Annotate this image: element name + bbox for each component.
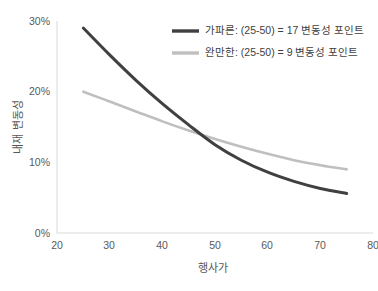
- chart-container: 30% 20% 10% 0% 20 30 40 50 60 70 80 행사가 …: [0, 0, 378, 291]
- y-tick-label-30: 30%: [29, 15, 50, 27]
- x-tick-label-70: 70: [314, 239, 326, 251]
- legend-label-gentle: 완만한: (25-50) = 9 변동성 포인트: [205, 46, 358, 58]
- x-tick-label-30: 30: [103, 239, 115, 251]
- y-tick-label-10: 10%: [29, 156, 50, 168]
- x-tick-label-80: 80: [367, 239, 378, 251]
- x-tick-label-40: 40: [156, 239, 168, 251]
- legend-label-steep: 가파른: (25-50) = 17 변동성 포인트: [205, 24, 364, 36]
- chart-legend: 가파른: (25-50) = 17 변동성 포인트 완만한: (25-50) =…: [172, 24, 364, 58]
- x-tick-label-20: 20: [51, 239, 63, 251]
- y-tick-label-0: 0%: [35, 227, 50, 239]
- y-tick-label-20: 20%: [29, 85, 50, 97]
- line-chart: 30% 20% 10% 0% 20 30 40 50 60 70 80 행사가 …: [0, 0, 378, 291]
- x-axis-title: 행사가: [198, 262, 228, 274]
- y-axis-title: 내재 변동성: [12, 100, 24, 153]
- x-tick-label-50: 50: [209, 239, 221, 251]
- series-line-gentle: [83, 92, 346, 170]
- x-tick-label-60: 60: [261, 239, 273, 251]
